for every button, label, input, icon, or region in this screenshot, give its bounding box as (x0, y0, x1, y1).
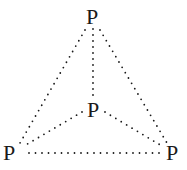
p4-tetrahedron-diagram: P P P P (0, 0, 187, 170)
atom-p-bottom-left: P (3, 140, 15, 165)
bond-top-bottom-left (20, 30, 85, 143)
atom-p-top: P (86, 4, 98, 29)
atom-p-bottom-right: P (166, 140, 178, 165)
bond-center-bottom-left (24, 112, 82, 146)
bond-top-bottom-right (100, 30, 167, 143)
atom-p-center: P (87, 97, 99, 122)
bond-center-bottom-right (105, 112, 162, 146)
